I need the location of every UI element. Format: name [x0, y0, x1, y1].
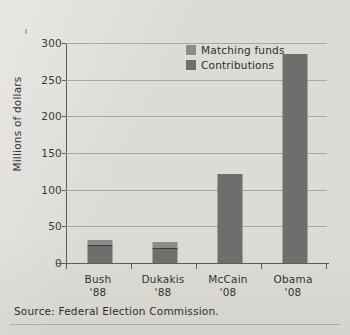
legend-label: Matching funds [201, 44, 285, 56]
bar-segment-contributions [283, 54, 308, 263]
bar-obama [283, 54, 308, 263]
y-tick-label: 250 [41, 74, 62, 86]
x-category-year: '08 [193, 286, 263, 299]
bar-segment-matching-funds [88, 240, 113, 247]
x-tick-mark [261, 263, 262, 269]
bar-segment-contributions [88, 246, 113, 263]
bar-bush [88, 240, 113, 263]
y-tick-label: 200 [41, 110, 62, 122]
x-tick-mark [196, 263, 197, 269]
bar-group-bush [70, 43, 130, 263]
x-category-dukakis: Dukakis '88 [128, 273, 198, 299]
y-tick-label: 150 [41, 147, 62, 159]
bar-dukakis [153, 242, 178, 263]
x-tick-mark [131, 263, 132, 269]
bar-group-obama [265, 43, 325, 263]
y-tick-label: 300 [41, 37, 62, 49]
x-category-obama: Obama '08 [258, 273, 328, 299]
legend-label: Contributions [201, 59, 274, 71]
x-category-name: Dukakis [142, 273, 185, 285]
x-category-bush: Bush '88 [63, 273, 133, 299]
plot-area [66, 43, 327, 263]
x-category-year: '08 [258, 286, 328, 299]
x-tick-mark [326, 263, 327, 269]
bar-group-mccain [200, 43, 260, 263]
bar-group-dukakis [135, 43, 195, 263]
x-category-year: '88 [128, 286, 198, 299]
bar-segment-contributions [153, 249, 178, 263]
x-category-name: Obama [273, 273, 312, 285]
caption-divider [10, 324, 340, 325]
bar-segment-matching-funds [153, 242, 178, 249]
x-axis-line [57, 263, 329, 264]
legend-item-contributions: Contributions [186, 59, 285, 71]
legend-item-matching-funds: Matching funds [186, 44, 285, 56]
x-category-name: McCain [208, 273, 247, 285]
chart-figure: Millions of dollars 300 250 200 150 100 … [0, 0, 350, 335]
y-axis-ticks: 300 250 200 150 100 50 0 [0, 0, 62, 335]
x-category-year: '88 [63, 286, 133, 299]
x-tick-mark [66, 263, 67, 269]
y-tick-label: 100 [41, 184, 62, 196]
legend-swatch-icon [186, 45, 196, 55]
legend-swatch-icon [186, 60, 196, 70]
chart-legend: Matching funds Contributions [186, 44, 285, 71]
bar-segment-contributions [218, 174, 243, 263]
x-category-name: Bush [85, 273, 112, 285]
y-tick-label: 50 [48, 220, 62, 232]
source-caption: Source: Federal Election Commission. [14, 305, 219, 317]
x-category-mccain: McCain '08 [193, 273, 263, 299]
bar-mccain [218, 174, 243, 263]
